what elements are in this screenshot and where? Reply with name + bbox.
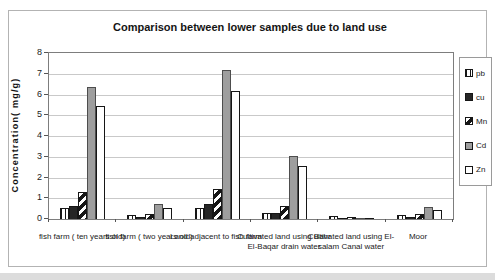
legend-item: Mn: [465, 117, 491, 126]
bar-pb: [329, 216, 338, 219]
bar-group: [116, 53, 183, 219]
bar-Cd: [424, 207, 433, 219]
legend-swatch-pb: [465, 69, 473, 77]
x-tick-mark: [250, 219, 251, 222]
legend-label: Zn: [476, 165, 485, 174]
y-tick-label: 7: [20, 68, 42, 78]
legend-swatch-Cd: [465, 142, 473, 150]
y-tick-mark: [44, 114, 48, 115]
bar-Cd: [289, 156, 298, 219]
legend-item: cu: [465, 93, 491, 102]
bar-Zn: [298, 166, 307, 219]
bar-Zn: [231, 91, 240, 219]
legend-swatch-Zn: [465, 166, 473, 174]
x-tick-mark: [48, 219, 49, 222]
y-tick-mark: [44, 73, 48, 74]
bar-Mn: [415, 214, 424, 219]
bar-pb: [60, 208, 69, 219]
bar-Zn: [365, 218, 374, 219]
bar-cu: [271, 213, 280, 219]
bar-Mn: [280, 206, 289, 219]
bar-Mn: [213, 189, 222, 219]
bar-cu: [204, 204, 213, 219]
bar-group: [251, 53, 318, 219]
y-tick-mark: [44, 197, 48, 198]
y-tick-mark: [44, 52, 48, 53]
bar-cu: [69, 206, 78, 219]
x-tick-mark: [183, 219, 184, 222]
y-tick-mark: [44, 94, 48, 95]
legend: pbcuMnCdZn: [459, 57, 492, 186]
bar-Zn: [96, 106, 105, 219]
legend-item: Zn: [465, 165, 491, 174]
legend-item: pb: [465, 69, 491, 78]
bar-pb: [262, 213, 271, 219]
y-tick-mark: [44, 177, 48, 178]
legend-swatch-cu: [465, 93, 473, 101]
x-tick-mark: [317, 219, 318, 222]
y-tick-label: 2: [20, 172, 42, 182]
legend-label: Mn: [476, 117, 487, 126]
bar-group: [49, 53, 116, 219]
y-tick-label: 5: [20, 109, 42, 119]
legend-swatch-Mn: [465, 117, 473, 125]
bar-Zn: [433, 210, 442, 219]
bar-Cd: [356, 218, 365, 219]
plot-area: [48, 52, 454, 220]
legend-item: Cd: [465, 141, 491, 150]
y-tick-label: 3: [20, 151, 42, 161]
bar-cu: [406, 217, 415, 219]
bar-pb: [397, 215, 406, 219]
bar-Mn: [78, 192, 87, 219]
y-tick-label: 0: [20, 213, 42, 223]
bar-Cd: [87, 87, 96, 219]
x-tick-mark: [115, 219, 116, 222]
x-category-label: Moor: [368, 232, 468, 242]
bar-group: [386, 53, 453, 219]
y-tick-label: 8: [20, 47, 42, 57]
y-tick-label: 1: [20, 192, 42, 202]
bar-Mn: [145, 214, 154, 219]
bar-Zn: [163, 208, 172, 219]
bar-Cd: [222, 70, 231, 219]
y-tick-mark: [44, 135, 48, 136]
legend-label: Cd: [476, 141, 486, 150]
bar-group: [184, 53, 251, 219]
bar-Mn: [347, 217, 356, 219]
y-tick-label: 4: [20, 130, 42, 140]
y-axis-label: Concentration( mg/g): [10, 78, 20, 193]
bar-group: [318, 53, 385, 219]
legend-label: cu: [476, 93, 484, 102]
bar-pb: [195, 208, 204, 219]
bar-cu: [136, 217, 145, 219]
bar-groups-container: [49, 53, 453, 219]
scan-artifact-band: [0, 273, 495, 280]
legend-label: pb: [476, 69, 485, 78]
y-tick-label: 6: [20, 89, 42, 99]
x-tick-mark: [385, 219, 386, 222]
bar-cu: [338, 218, 347, 219]
chart-title: Comparison between lower samples due to …: [48, 21, 452, 33]
bar-Cd: [154, 204, 163, 219]
x-tick-mark: [452, 219, 453, 222]
y-tick-mark: [44, 156, 48, 157]
bar-pb: [127, 215, 136, 219]
